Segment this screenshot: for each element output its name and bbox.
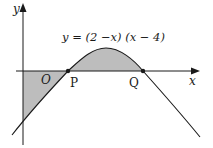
origin-label: O [41, 74, 51, 86]
point-p [66, 69, 70, 73]
y-axis-arrow-icon [20, 3, 27, 12]
point-q [141, 69, 145, 73]
graph [0, 0, 213, 148]
equation-label: y = (2 −x) (x − 4) [62, 32, 165, 44]
point-p-label: P [70, 77, 78, 89]
y-axis-label: y [13, 3, 20, 15]
x-axis-label: x [189, 75, 196, 87]
point-q-label: Q [129, 77, 139, 89]
